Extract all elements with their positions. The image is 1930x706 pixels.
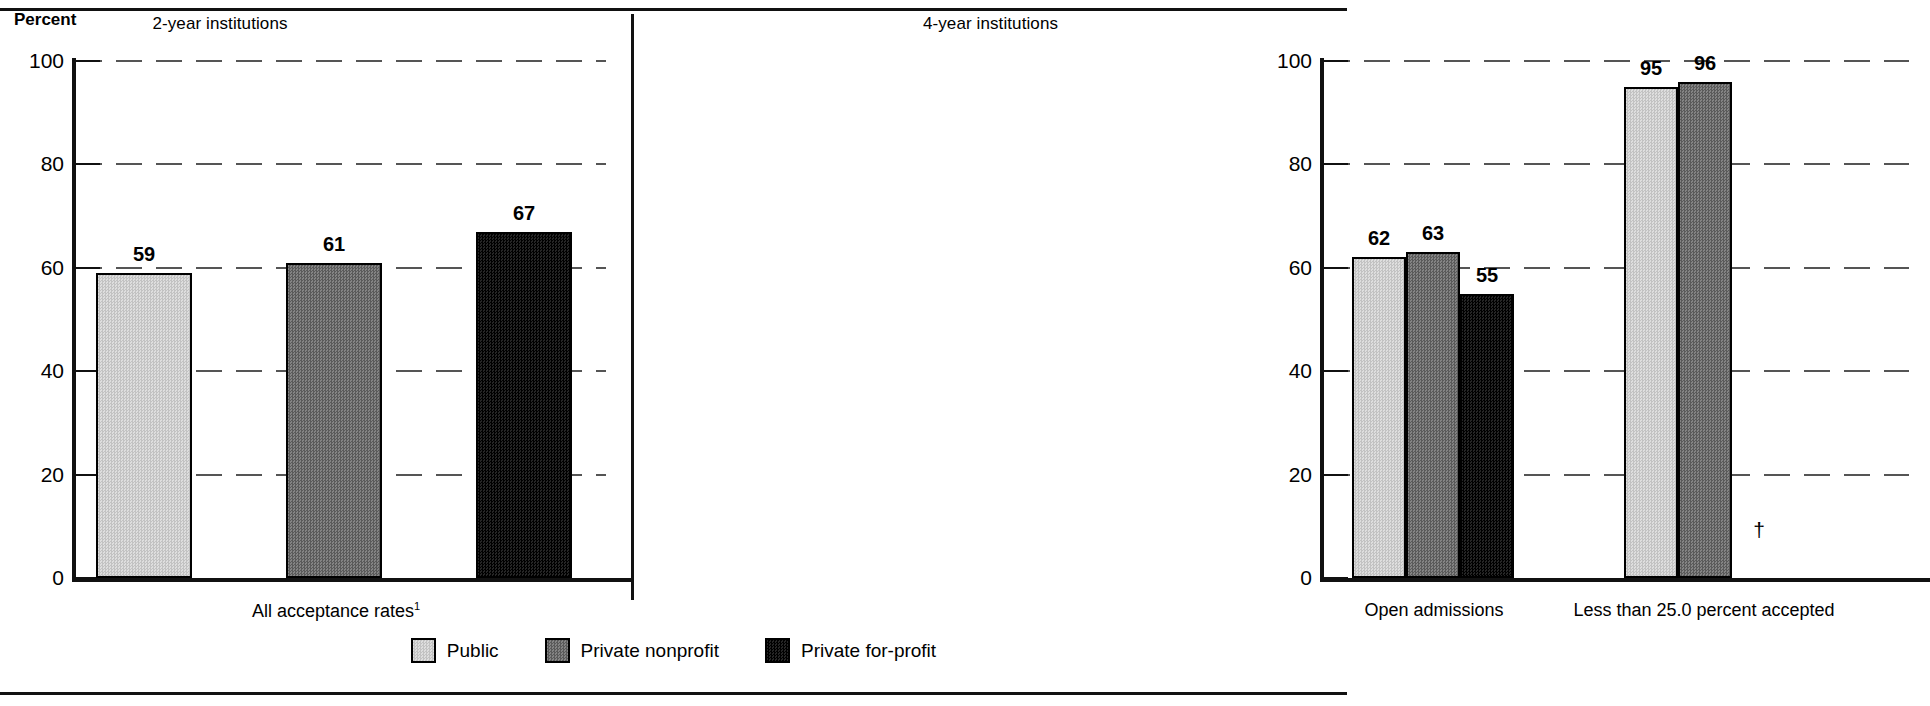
- legend-label: Private for-profit: [801, 640, 936, 662]
- bar-four-year-g1-public[interactable]: [1624, 87, 1678, 578]
- gridline-100: [76, 60, 606, 62]
- y-tick-mark-60: [1320, 267, 1348, 269]
- y-tick-label-80: 80: [1260, 152, 1312, 176]
- y-axis-line: [72, 58, 76, 581]
- y-tick-mark-100: [1320, 60, 1348, 62]
- y-tick-mark-20: [1320, 474, 1348, 476]
- bar-value-label: 96: [1694, 52, 1716, 75]
- panel-title-4-year: 4-year institutions: [634, 14, 1347, 34]
- bar-value-label: 67: [513, 202, 535, 225]
- gridline-80: [76, 163, 606, 165]
- legend-label: Private nonprofit: [581, 640, 719, 662]
- y-tick-mark-40: [1320, 370, 1348, 372]
- x-axis-group-label: Open admissions: [1364, 600, 1503, 621]
- bar-value-label: 63: [1422, 222, 1444, 245]
- bar-four-year-g1-private-nonprofit[interactable]: [1678, 82, 1732, 578]
- bar-two-year-g0-private-for-profit[interactable]: [476, 232, 572, 578]
- y-axis-line: [1320, 58, 1324, 581]
- y-tick-mark-60: [72, 267, 100, 269]
- legend-swatch-icon: [411, 638, 436, 663]
- legend: PublicPrivate nonprofitPrivate for-profi…: [0, 638, 1347, 663]
- plot-area-2-year: 020406080100596167All acceptance rates1: [76, 61, 581, 578]
- panel-title-2-year: 2-year institutions: [0, 14, 440, 34]
- footnote-marker: 1: [414, 600, 420, 612]
- bar-value-label: 95: [1640, 57, 1662, 80]
- bar-two-year-g0-public[interactable]: [96, 273, 192, 578]
- y-tick-label-100: 100: [1260, 49, 1312, 73]
- y-tick-label-0: 0: [12, 566, 64, 590]
- x-axis-group-label-text: All acceptance rates: [252, 601, 414, 621]
- x-axis-line: [72, 578, 632, 582]
- x-axis-group-label: All acceptance rates1: [252, 600, 420, 622]
- x-axis-line: [1320, 578, 1930, 582]
- y-tick-label-60: 60: [1260, 256, 1312, 280]
- legend-label: Public: [447, 640, 499, 662]
- y-tick-label-40: 40: [12, 359, 64, 383]
- y-tick-label-0: 0: [1260, 566, 1312, 590]
- x-axis-group-label-text: Less than 25.0 percent accepted: [1573, 600, 1834, 620]
- y-tick-mark-100: [72, 60, 100, 62]
- legend-item-private-for-profit[interactable]: Private for-profit: [765, 638, 936, 663]
- y-tick-label-60: 60: [12, 256, 64, 280]
- legend-item-private-nonprofit[interactable]: Private nonprofit: [545, 638, 719, 663]
- x-axis-group-label-text: Open admissions: [1364, 600, 1503, 620]
- bar-value-label: 59: [133, 243, 155, 266]
- x-axis-group-label: Less than 25.0 percent accepted: [1573, 600, 1834, 621]
- y-tick-label-100: 100: [12, 49, 64, 73]
- bar-four-year-g0-public[interactable]: [1352, 257, 1406, 578]
- panel-2-year: 2-year institutions 020406080100596167Al…: [0, 0, 631, 706]
- bar-four-year-g0-private-for-profit[interactable]: [1460, 294, 1514, 578]
- y-tick-label-80: 80: [12, 152, 64, 176]
- y-tick-mark-0: [1320, 577, 1348, 579]
- y-tick-mark-80: [1320, 163, 1348, 165]
- y-tick-label-40: 40: [1260, 359, 1312, 383]
- y-tick-mark-80: [72, 163, 100, 165]
- legend-swatch-icon: [545, 638, 570, 663]
- bar-value-label: 61: [323, 233, 345, 256]
- legend-item-public[interactable]: Public: [411, 638, 499, 663]
- plot-area-4-year: 020406080100626355Open admissions9596†Le…: [1324, 61, 1894, 578]
- gridline-100: [1324, 60, 1909, 62]
- panel-4-year: 4-year institutions 020406080100626355Op…: [634, 0, 1347, 706]
- y-tick-label-20: 20: [1260, 463, 1312, 487]
- y-tick-label-20: 20: [12, 463, 64, 487]
- legend-swatch-icon: [765, 638, 790, 663]
- bar-value-label: 55: [1476, 264, 1498, 287]
- bar-four-year-g0-private-nonprofit[interactable]: [1406, 252, 1460, 578]
- bar-two-year-g0-private-nonprofit[interactable]: [286, 263, 382, 578]
- no-data-dagger-symbol: †: [1753, 518, 1765, 542]
- bar-value-label: 62: [1368, 227, 1390, 250]
- gridline-80: [1324, 163, 1909, 165]
